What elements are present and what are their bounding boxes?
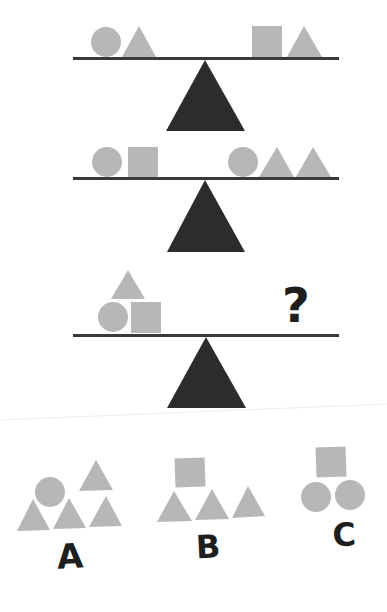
square-shape: [315, 446, 346, 477]
circle-shape: [92, 147, 122, 177]
beam: [73, 177, 339, 180]
square-shape: [252, 26, 282, 57]
triangle-shape: [195, 489, 229, 520]
option-b[interactable]: B: [157, 457, 265, 566]
fulcrum: [167, 180, 245, 252]
triangle-shape: [79, 460, 113, 491]
balance-puzzle: ? A B C: [0, 0, 387, 612]
beam: [73, 57, 339, 60]
scale-1: [73, 26, 339, 131]
triangle-shape: [111, 270, 145, 299]
triangle-shape: [287, 26, 322, 57]
circle-shape: [335, 480, 365, 510]
circle-shape: [301, 482, 331, 512]
triangle-shape: [89, 496, 122, 527]
triangle-shape: [259, 147, 294, 177]
fulcrum: [166, 60, 245, 131]
circle-shape: [35, 477, 65, 507]
question-mark: ?: [282, 277, 310, 333]
circle-shape: [98, 302, 128, 332]
circle-shape: [228, 147, 258, 177]
triangle-shape: [122, 26, 156, 57]
square-shape: [175, 457, 206, 487]
beam: [73, 334, 339, 337]
triangle-shape: [157, 491, 192, 522]
option-c[interactable]: C: [301, 446, 365, 554]
option-c-label: C: [331, 515, 356, 554]
triangle-shape: [232, 486, 265, 518]
square-shape: [128, 147, 158, 177]
fulcrum: [167, 337, 246, 408]
option-a[interactable]: A: [17, 460, 122, 577]
square-shape: [131, 302, 161, 333]
scale-2: [73, 147, 339, 252]
circle-shape: [91, 27, 121, 57]
triangle-shape: [296, 147, 331, 177]
option-a-label: A: [56, 535, 85, 576]
option-b-label: B: [195, 527, 221, 566]
scale-3: ?: [73, 270, 339, 408]
